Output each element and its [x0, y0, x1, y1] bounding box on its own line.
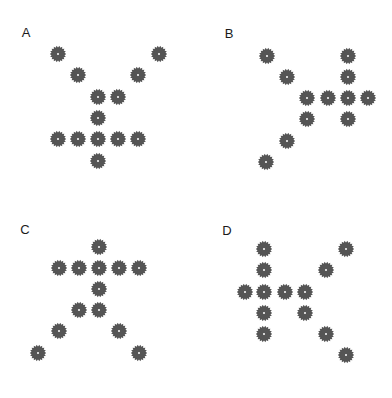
gear-icon — [256, 241, 273, 258]
gear-icon — [131, 345, 148, 362]
gear-icon — [70, 131, 87, 148]
gear-icon — [130, 131, 147, 148]
gear-icon — [279, 69, 296, 86]
gear-icon — [91, 302, 108, 319]
gear-icon — [111, 260, 128, 277]
gear-icon — [90, 110, 107, 127]
gear-icon — [71, 302, 88, 319]
gear-icon — [258, 154, 275, 171]
gear-icon — [90, 153, 107, 170]
gear-icon — [256, 326, 273, 343]
gear-icon — [340, 48, 357, 65]
gear-icon — [111, 323, 128, 340]
panel-label: A — [22, 25, 31, 40]
gear-icon — [297, 284, 314, 301]
gear-icon — [91, 260, 108, 277]
gear-icon — [71, 260, 88, 277]
gear-icon — [131, 260, 148, 277]
gear-icon — [91, 239, 108, 256]
gear-icon — [91, 281, 108, 298]
gear-icon — [51, 260, 68, 277]
gear-icon — [318, 262, 335, 279]
gear-icon — [340, 111, 357, 128]
gear-icon — [130, 67, 147, 84]
gear-icon — [70, 67, 87, 84]
gear-icon — [50, 131, 67, 148]
gear-icon — [279, 133, 296, 150]
gear-icon — [237, 284, 254, 301]
panel-label: B — [225, 26, 234, 41]
gear-icon — [151, 46, 168, 63]
gear-icon — [318, 326, 335, 343]
gear-icon — [30, 345, 47, 362]
gear-icon — [256, 262, 273, 279]
panel-label: C — [20, 222, 29, 237]
gear-icon — [50, 46, 67, 63]
gear-icon — [360, 90, 377, 107]
gear-icon — [277, 284, 294, 301]
gear-icon — [90, 131, 107, 148]
gear-icon — [297, 305, 314, 322]
gear-icon — [51, 323, 68, 340]
gear-icon — [340, 90, 357, 107]
gear-icon — [110, 131, 127, 148]
gear-icon — [90, 89, 107, 106]
gear-icon — [299, 111, 316, 128]
panel-label: D — [222, 223, 231, 238]
gear-icon — [338, 347, 355, 364]
gear-icon — [110, 89, 127, 106]
gear-icon — [340, 69, 357, 86]
gear-icon — [338, 241, 355, 258]
gear-icon — [256, 284, 273, 301]
gear-icon — [259, 48, 276, 65]
gear-icon — [320, 90, 337, 107]
gear-icon — [299, 90, 316, 107]
gear-icon — [256, 305, 273, 322]
